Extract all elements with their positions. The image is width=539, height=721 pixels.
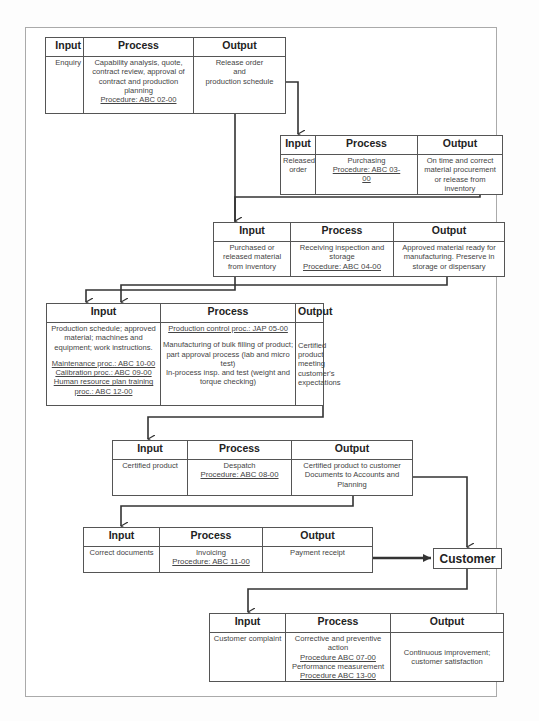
process-text: Capability analysis, quote, contract rev… [92, 58, 184, 95]
ipo-table-quotation: Input Process Output Enquiry Capability … [45, 37, 286, 114]
header-output: Output [394, 223, 505, 242]
customer-node: Customer [433, 548, 502, 569]
header-output: Output [263, 528, 373, 547]
ipo-table-despatch: Input Process Output Certified product D… [112, 440, 413, 496]
process-text: Receiving inspection and storage [293, 243, 391, 262]
procedure-link-maintenance[interactable]: Maintenance proc.: ABC 10-00 [49, 359, 158, 368]
output-cell: Approved material ready for manufacturin… [394, 242, 505, 277]
input-cell: Purchased or released material from inve… [214, 242, 291, 277]
procedure-link[interactable]: Procedure: ABC 08-00 [190, 470, 289, 479]
procedure-link-training[interactable]: Human resource plan training proc.: ABC … [49, 377, 158, 396]
header-input: Input [281, 136, 316, 155]
header-output: Output [296, 304, 324, 323]
process-cell: InvoicingProcedure: ABC 11-00 [160, 547, 263, 573]
procedure-link[interactable]: Procedure: ABC 04-00 [293, 262, 391, 271]
output-line: Release order [196, 58, 283, 67]
header-output: Output [418, 136, 503, 155]
header-process: Process [160, 528, 263, 547]
input-text: Enquiry [55, 58, 81, 67]
output-line: and [196, 67, 283, 76]
header-output: Output [292, 441, 413, 460]
header-process: Process [188, 441, 292, 460]
process-cell: Corrective and preventive action Procedu… [286, 633, 391, 682]
process-text-2: Performance measurement [288, 662, 388, 671]
input-cell: Production schedule; approved material; … [47, 323, 161, 406]
process-cell: PurchasingProcedure: ABC 03-00 [316, 155, 418, 195]
process-text: Despatch [190, 461, 289, 470]
header-output: Output [194, 38, 286, 57]
process-text: Purchasing [318, 156, 415, 165]
header-process: Process [84, 38, 194, 57]
procedure-link-calibration[interactable]: Calibration proc.: ABC 09-00 [49, 368, 158, 377]
output-cell: Release orderandproduction schedule [194, 57, 286, 114]
header-process: Process [291, 223, 394, 242]
header-input: Input [113, 441, 188, 460]
output-cell: Certified product to customer Documents … [292, 460, 413, 496]
output-cell: Certified product meeting customer's exp… [296, 323, 324, 406]
procedure-link[interactable]: Procedure: ABC 03-00 [318, 165, 415, 183]
header-process: Process [161, 304, 296, 323]
output-cell: On time and correct material procurement… [418, 155, 503, 195]
header-input: Input [214, 223, 291, 242]
output-line: production schedule [196, 77, 283, 86]
header-process: Process [316, 136, 418, 155]
process-cell: DespatchProcedure: ABC 08-00 [188, 460, 292, 496]
input-cell: Correct documents [84, 547, 160, 573]
procedure-link[interactable]: Procedure: ABC 02-00 [86, 95, 191, 104]
output-cell: Continuous improvement; customer satisfa… [391, 633, 504, 682]
ipo-table-complaint: Input Process Output Customer complaint … [209, 613, 504, 682]
output-cell: Payment receipt [263, 547, 373, 573]
input-cell: Customer complaint [210, 633, 286, 682]
procedure-link-2[interactable]: Procedure ABC 13-00 [288, 671, 388, 680]
header-input: Input [46, 38, 84, 57]
input-cell: Released order [281, 155, 316, 195]
process-cell: Production control proc.: JAP 05-00 Manu… [161, 323, 296, 406]
process-text: Corrective and preventive action [288, 634, 388, 653]
header-input: Input [47, 304, 161, 323]
header-output: Output [391, 614, 504, 633]
process-text-2: In-process insp. and test (weight and to… [163, 368, 293, 387]
header-process: Process [286, 614, 391, 633]
procedure-link-production-control[interactable]: Production control proc.: JAP 05-00 [163, 324, 293, 333]
header-input: Input [210, 614, 286, 633]
process-cell: Capability analysis, quote, contract rev… [84, 57, 194, 114]
procedure-link[interactable]: Procedure ABC 07-00 [288, 653, 388, 662]
process-text: Invoicing [162, 548, 260, 557]
procedure-link[interactable]: Procedure: ABC 11-00 [162, 557, 260, 566]
process-cell: Receiving inspection and storageProcedur… [291, 242, 394, 277]
ipo-table-production: Input Process Output Production schedule… [46, 303, 324, 406]
ipo-table-receiving: Input Process Output Purchased or releas… [213, 222, 505, 277]
input-cell: Enquiry [46, 57, 84, 114]
ipo-table-invoicing: Input Process Output Correct documents I… [83, 527, 373, 573]
process-text: Manufacturing of bulk filling of product… [163, 340, 293, 368]
header-input: Input [84, 528, 160, 547]
input-text: Production schedule; approved material; … [49, 324, 158, 352]
input-cell: Certified product [113, 460, 188, 496]
ipo-table-purchasing: Input Process Output Released order Purc… [280, 135, 503, 195]
